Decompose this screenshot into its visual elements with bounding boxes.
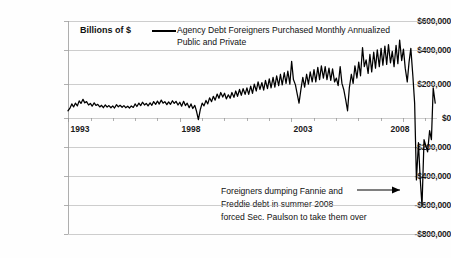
y-axis-ticks xyxy=(64,21,68,234)
annotation-arrow-icon xyxy=(357,186,400,193)
chart-container: $600,000 $400,000 $200,000 $0 -$200,000 … xyxy=(0,0,451,258)
plot-area xyxy=(0,0,451,258)
x-axis-ticks xyxy=(68,118,425,122)
data-series-line xyxy=(68,40,435,206)
